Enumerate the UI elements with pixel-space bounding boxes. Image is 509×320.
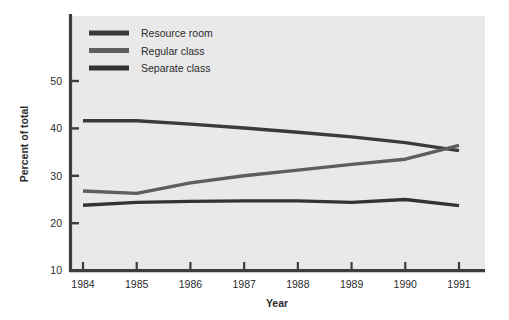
chart-legend: Resource roomRegular classSeparate class [89, 27, 213, 74]
x-tick-label: 1986 [179, 278, 203, 290]
x-tick-label: 1991 [447, 278, 471, 290]
legend-swatch [89, 31, 129, 36]
x-tick-label: 1989 [340, 278, 364, 290]
x-tick-label: 1988 [286, 278, 310, 290]
y-tick-label: 30 [50, 170, 62, 182]
y-tick-label: 40 [50, 122, 62, 134]
chart-figure: 1020304050 19841985198619871988198919901… [0, 0, 509, 320]
x-tick-label: 1987 [232, 278, 256, 290]
legend-label: Separate class [141, 62, 210, 74]
x-axis-title: Year [266, 297, 288, 309]
line-chart: 1020304050 19841985198619871988198919901… [0, 0, 509, 320]
x-tick-label: 1984 [71, 278, 95, 290]
y-tick-label: 10 [50, 264, 62, 276]
x-tick-label: 1990 [394, 278, 418, 290]
legend-label: Resource room [141, 27, 213, 39]
legend-swatch [89, 66, 129, 71]
y-axis-title: Percent of total [18, 106, 30, 183]
y-tick-label: 50 [50, 75, 62, 87]
legend-label: Regular class [141, 45, 205, 57]
legend-swatch [89, 48, 129, 53]
y-tick-label: 20 [50, 217, 62, 229]
x-tick-label: 1985 [125, 278, 149, 290]
